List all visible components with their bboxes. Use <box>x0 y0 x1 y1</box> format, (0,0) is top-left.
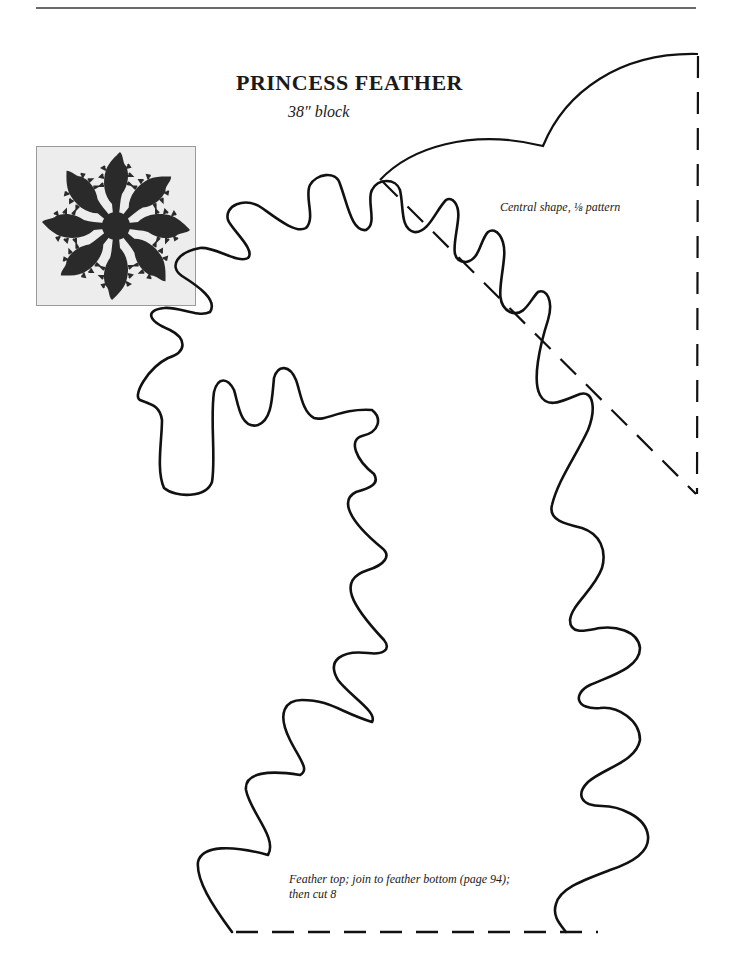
feather-top-label-line2: then cut 8 <box>289 887 510 902</box>
feather-top-label-line1: Feather top; join to feather bottom (pag… <box>289 872 510 887</box>
feather-top-outline <box>138 175 648 932</box>
central-shape-fold-line-vertical <box>697 56 698 494</box>
central-shape-outline <box>380 54 698 180</box>
central-shape-fold-line-diagonal <box>382 181 696 494</box>
central-shape-label: Central shape, ⅛ pattern <box>500 200 620 215</box>
central-shape-pattern <box>380 54 698 494</box>
feather-top-pattern <box>138 175 648 932</box>
feather-top-label: Feather top; join to feather bottom (pag… <box>289 872 510 902</box>
pattern-drawings <box>0 0 735 958</box>
